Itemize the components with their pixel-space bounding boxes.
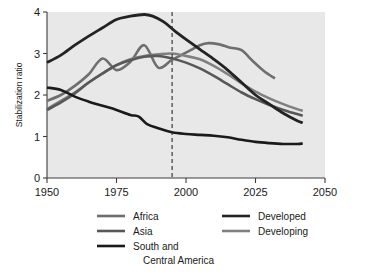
legend-label: South and xyxy=(133,241,179,252)
x-tick-label: 2025 xyxy=(243,186,267,198)
chart-canvas: 0123419501975200020252050Stabilization r… xyxy=(0,0,384,278)
legend-label: Developing xyxy=(258,226,308,237)
legend-entry-asia[interactable]: Asia xyxy=(97,226,153,237)
legend-label: Asia xyxy=(133,226,153,237)
x-tick-label: 1975 xyxy=(104,186,128,198)
y-tick-label: 3 xyxy=(34,48,40,60)
legend-swatch xyxy=(97,245,125,248)
x-tick-label: 2050 xyxy=(313,186,337,198)
legend-label: Africa xyxy=(133,211,159,222)
y-axis-title: Stabilization ratio xyxy=(14,62,24,127)
y-tick-label: 2 xyxy=(34,89,40,101)
legend-swatch xyxy=(97,230,125,233)
stabilization-ratio-chart: 0123419501975200020252050Stabilization r… xyxy=(0,0,384,278)
y-tick-label: 0 xyxy=(34,172,40,184)
y-tick-label: 4 xyxy=(34,6,40,18)
legend-entry-africa[interactable]: Africa xyxy=(97,211,159,222)
legend-label-line2: Central America xyxy=(143,255,215,266)
legend-entry-south-and[interactable]: South andCentral America xyxy=(97,241,215,266)
legend-swatch xyxy=(222,230,250,233)
legend-swatch xyxy=(222,215,250,218)
x-tick-label: 1950 xyxy=(35,186,59,198)
legend-label: Developed xyxy=(258,211,306,222)
y-tick-label: 1 xyxy=(34,131,40,143)
legend-swatch xyxy=(97,215,125,218)
x-tick-label: 2000 xyxy=(174,186,198,198)
legend-entry-developed[interactable]: Developed xyxy=(222,211,306,222)
legend-entry-developing[interactable]: Developing xyxy=(222,226,308,237)
